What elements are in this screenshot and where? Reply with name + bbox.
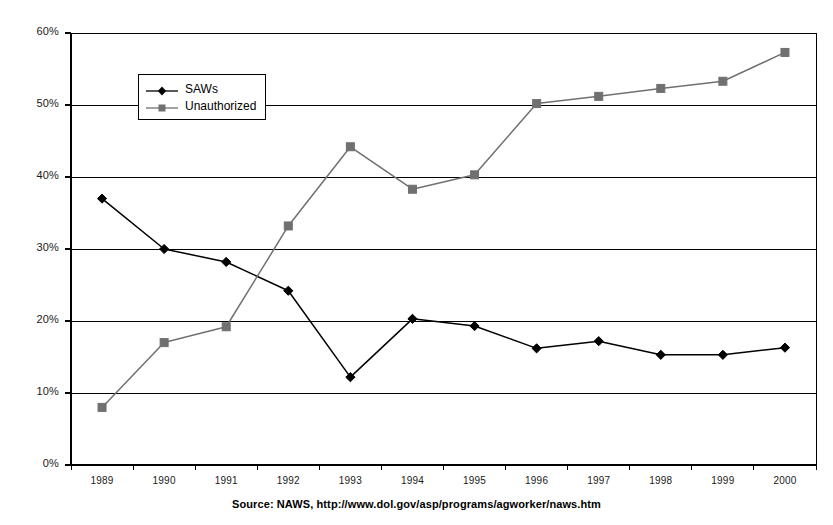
y-axis-tick-label: 30% (19, 241, 59, 253)
y-axis-tick-label: 50% (19, 97, 59, 109)
x-axis-tick-label: 1992 (258, 475, 318, 486)
square-marker-icon (145, 100, 179, 112)
y-axis-tick-label: 40% (19, 169, 59, 181)
y-axis-tick-label: 20% (19, 313, 59, 325)
x-axis-tick-label: 2000 (755, 475, 815, 486)
legend-item-unauthorized: Unauthorized (145, 97, 256, 114)
x-axis-tick-label: 1998 (631, 475, 691, 486)
x-axis-tick-label: 1995 (445, 475, 505, 486)
diamond-marker-icon (145, 83, 179, 95)
x-axis-tick-label: 1996 (507, 475, 567, 486)
x-axis-tick-label: 1991 (196, 475, 256, 486)
y-axis-tick-label: 60% (19, 25, 59, 37)
x-axis-tick-label: 1990 (134, 475, 194, 486)
x-axis-tick-label: 1989 (72, 475, 132, 486)
legend-label-saws: SAWs (185, 82, 218, 96)
y-axis-tick-label: 10% (19, 385, 59, 397)
x-axis-tick-label: 1994 (382, 475, 442, 486)
chart-legend: SAWs Unauthorized (138, 74, 266, 120)
x-axis-tick-label: 1999 (693, 475, 753, 486)
chart-container: 0%10%20%30%40%50%60% 1989199019911992199… (0, 0, 833, 525)
y-axis-tick-label: 0% (19, 457, 59, 469)
legend-label-unauthorized: Unauthorized (185, 99, 256, 113)
line-chart-plot (0, 0, 833, 525)
source-caption: Source: NAWS, http://www.dol.gov/asp/pro… (0, 498, 833, 510)
x-axis-tick-label: 1997 (569, 475, 629, 486)
x-axis-tick-label: 1993 (320, 475, 380, 486)
legend-item-saws: SAWs (145, 80, 256, 97)
